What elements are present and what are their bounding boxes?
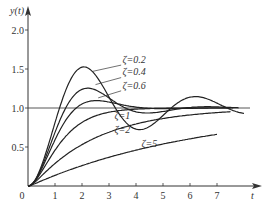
curve-label: ζ=2: [114, 124, 130, 136]
x-tick-label: 2: [80, 190, 85, 201]
y-tick-label: 1.5: [12, 64, 25, 75]
x-tick-label: 4: [134, 190, 139, 201]
x-tick-label: 0: [20, 190, 25, 201]
curve-label: ζ=5: [141, 138, 157, 150]
y-tick-label: 2.0: [12, 25, 25, 36]
x-tick-label: 5: [161, 190, 166, 201]
axes: 012345670.51.01.52.0ty(t): [9, 5, 262, 201]
curve-ζ=0.4: [28, 88, 239, 186]
curve-label: ζ=1: [114, 110, 130, 122]
curve-labels: ζ=0.2ζ=0.4ζ=0.6ζ=1ζ=2ζ=5: [93, 54, 157, 150]
x-tick-label: 7: [215, 190, 220, 201]
curve-ζ=5: [28, 134, 217, 186]
x-tick-label: 3: [107, 190, 112, 201]
step-response-chart: 012345670.51.01.52.0ty(t) ζ=0.2ζ=0.4ζ=0.…: [0, 0, 269, 208]
x-tick-label: 6: [188, 190, 193, 201]
x-tick-label: 1: [53, 190, 58, 201]
curve-label: ζ=0.6: [123, 80, 146, 92]
x-axis-label: t: [251, 190, 254, 201]
y-axis-label: y(t): [9, 5, 25, 17]
y-tick-label: 0.5: [12, 142, 25, 153]
y-tick-label: 1.0: [12, 103, 25, 114]
curve-label: ζ=0.4: [123, 66, 146, 78]
curve-label: ζ=0.2: [123, 54, 146, 66]
